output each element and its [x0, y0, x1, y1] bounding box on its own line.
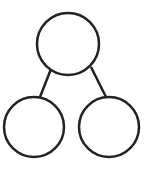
edge-root-right	[91, 67, 106, 97]
edge-root-left	[40, 69, 51, 97]
right-child-node	[79, 97, 139, 157]
left-child-node	[4, 97, 64, 157]
root-node	[37, 13, 99, 75]
tree-diagram	[0, 0, 148, 176]
